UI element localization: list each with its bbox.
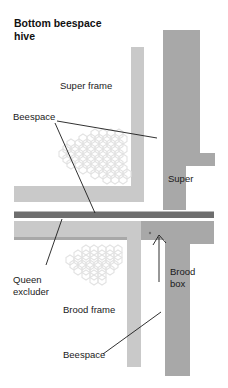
label-beespace-top: Beespace [13,111,55,122]
label-queen-excluder-line1: Queen [13,274,42,285]
label-brood-box-line2: box [170,278,186,289]
super-box-ledge [186,153,215,166]
label-super-frame: Super frame [60,80,112,91]
label-brood-box-line1: Brood [170,266,195,277]
hive-cross-section-svg: Bottom beespace hive Super frame Beespac… [0,0,228,388]
page-title-line1: Bottom beespace [14,17,102,29]
label-queen-excluder-line2: excluder [13,286,49,297]
label-beespace-bottom: Beespace [63,349,105,360]
page-title-line2: hive [14,30,35,42]
super-frame-bottom-rail [14,186,144,202]
label-brood-frame: Brood frame [63,304,115,315]
beespace-gap-marker-icon [149,232,151,234]
brood-frame-top-rail [14,221,127,237]
brood-frame-right-stile [127,221,141,367]
hive-diagram: Bottom beespace hive Super frame Beespac… [0,0,228,388]
super-frame-right-stile [131,47,144,202]
queen-excluder-bar [14,212,214,219]
label-super: Super [168,173,193,184]
